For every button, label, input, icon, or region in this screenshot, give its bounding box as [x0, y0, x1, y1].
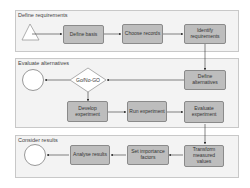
node-define-basis[interactable]: Define basis	[63, 25, 104, 44]
decision-label: Go/No-GO	[72, 77, 104, 83]
node-evaluate-experiment[interactable]: Evaluate experiment	[184, 101, 224, 123]
end-circle-evaluate	[22, 69, 44, 91]
node-choose-records[interactable]: Choose records	[122, 24, 163, 44]
end-circle-results	[24, 144, 46, 166]
start-triangle-icon	[22, 24, 39, 40]
node-develop-experiment[interactable]: Develop experiment	[67, 101, 108, 122]
node-run-experiment[interactable]: Run experiment	[127, 101, 167, 122]
node-analyse-results[interactable]: Analyse results	[70, 145, 110, 165]
node-identify-requirements[interactable]: Identify requirements	[184, 24, 226, 44]
node-transform-values[interactable]: Transform measured values	[184, 145, 224, 167]
node-set-importance[interactable]: Set importance factors	[127, 145, 169, 165]
node-define-alternatives[interactable]: Define alternatives	[184, 70, 226, 90]
